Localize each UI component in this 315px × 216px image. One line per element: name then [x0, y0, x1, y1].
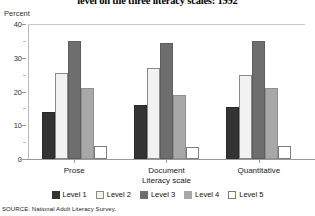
legend-swatch-icon — [228, 191, 236, 199]
bar-group — [213, 24, 305, 159]
y-tick-label: 20 — [14, 87, 22, 96]
bar-prose-level-3 — [68, 41, 81, 159]
x-axis-category-labels: ProseDocumentQuantitative — [28, 166, 305, 175]
y-tick-mark — [22, 58, 26, 59]
bar-prose-level-1 — [42, 112, 55, 159]
bar-quantitative-level-1 — [226, 107, 239, 159]
y-minor-tick-mark — [23, 75, 26, 76]
bar-prose-level-4 — [81, 88, 94, 159]
legend-label: Level 4 — [195, 190, 219, 199]
bar-groups — [28, 24, 305, 159]
x-category-label: Quantitative — [213, 166, 305, 175]
legend-item-level-1[interactable]: Level 1 — [52, 190, 87, 199]
legend-label: Level 2 — [107, 190, 131, 199]
x-category-label: Prose — [28, 166, 120, 175]
bar-document-level-2 — [147, 68, 160, 159]
chart-figure: level on the three literacy scales: 1992… — [0, 0, 315, 216]
legend-item-level-2[interactable]: Level 2 — [96, 190, 131, 199]
legend-item-level-3[interactable]: Level 3 — [140, 190, 175, 199]
bar-quantitative-level-3 — [252, 41, 265, 159]
y-tick-label: 30 — [14, 53, 22, 62]
x-axis-title: Literacy scale — [28, 176, 305, 185]
legend-label: Level 1 — [63, 190, 87, 199]
legend-item-level-5[interactable]: Level 5 — [228, 190, 263, 199]
bar-document-level-5 — [186, 147, 199, 159]
legend-item-level-4[interactable]: Level 4 — [184, 190, 219, 199]
y-tick-mark — [22, 125, 26, 126]
chart-title: level on the three literacy scales: 1992 — [0, 0, 315, 6]
x-axis-line — [20, 159, 315, 160]
y-tick-mark — [22, 92, 26, 93]
x-category-label: Document — [120, 166, 212, 175]
y-tick-label: 40 — [14, 20, 22, 29]
bar-prose-level-5 — [94, 146, 107, 160]
y-axis-tick-labels: 010203040 — [0, 24, 26, 160]
y-axis-title: Percent — [4, 9, 30, 18]
legend-swatch-icon — [184, 191, 192, 199]
y-minor-tick-mark — [23, 108, 26, 109]
plot-area — [28, 24, 305, 159]
bar-group — [120, 24, 212, 159]
legend-swatch-icon — [96, 191, 104, 199]
bar-document-level-1 — [134, 105, 147, 159]
bar-document-level-4 — [173, 95, 186, 159]
source-note: SOURCE: National Adult Literacy Survey. — [2, 206, 116, 212]
bar-quantitative-level-5 — [278, 146, 291, 160]
legend-swatch-icon — [52, 191, 60, 199]
legend-label: Level 3 — [151, 190, 175, 199]
y-minor-tick-mark — [23, 41, 26, 42]
y-minor-tick-mark — [23, 142, 26, 143]
legend-label: Level 5 — [239, 190, 263, 199]
bar-group — [28, 24, 120, 159]
bar-document-level-3 — [160, 43, 173, 159]
chart-legend: Level 1Level 2Level 3Level 4Level 5 — [0, 190, 315, 199]
bar-quantitative-level-4 — [265, 88, 278, 159]
legend-swatch-icon — [140, 191, 148, 199]
y-tick-mark — [22, 24, 26, 25]
y-tick-label: 10 — [14, 121, 22, 130]
bar-quantitative-level-2 — [239, 75, 252, 159]
bar-prose-level-2 — [55, 73, 68, 159]
